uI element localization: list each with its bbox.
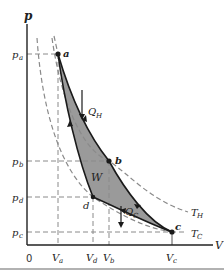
v-c-label: V c [166,252,177,265]
heat-in-label: Q H [88,106,103,120]
isotherm-cold-label: T C [191,228,203,241]
isotherm-hot-upper [54,36,58,54]
v-a-label: V a [52,252,63,265]
point-b-label: b [115,155,122,166]
pv-diagram: p V 0 p a p b p d p c V a V d V b V c a … [0,0,224,272]
svg-text:p: p [12,156,19,167]
v-b-label: V b [103,252,115,265]
work-label: W [91,171,104,184]
p-b-label: p b [12,156,24,169]
y-axis-label: p [24,9,33,23]
point-a-label: a [63,48,69,59]
svg-text:Q: Q [125,206,133,217]
svg-text:p: p [12,192,19,203]
point-d-label: d [83,200,89,211]
svg-text:c: c [19,232,23,240]
p-c-label: p c [12,227,23,240]
svg-text:b: b [110,257,115,265]
point-c-label: c [175,221,181,232]
svg-text:C: C [133,212,139,220]
svg-text:a: a [59,257,63,265]
x-axis-label: V [215,239,224,252]
v-d-label: V d [86,252,98,265]
p-a-label: p a [12,49,23,62]
svg-text:d: d [19,197,24,205]
isotherm-hot-label: T H [191,207,204,220]
svg-text:Q: Q [88,106,96,117]
p-d-label: p d [12,192,24,205]
heat-in-arrow [79,90,85,120]
svg-text:b: b [19,161,24,169]
svg-text:H: H [196,212,204,220]
svg-text:C: C [197,233,203,241]
svg-text:p: p [12,49,19,60]
svg-text:p: p [12,227,19,238]
svg-text:a: a [19,54,23,62]
origin-label: 0 [26,253,32,264]
svg-text:d: d [93,257,98,265]
svg-text:H: H [95,112,103,120]
svg-text:c: c [173,257,177,265]
